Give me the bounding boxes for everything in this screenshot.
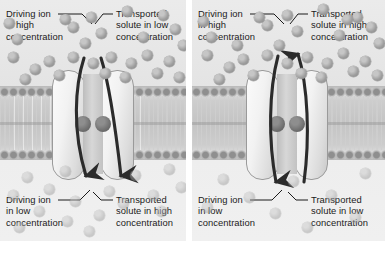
solute-particle-top bbox=[352, 12, 363, 23]
solute-particle-bottom bbox=[350, 212, 361, 223]
solute-particle-bottom bbox=[148, 190, 159, 201]
solute-particle-top bbox=[262, 20, 273, 31]
solute-particle-top bbox=[262, 50, 273, 61]
solute-particle-bottom bbox=[288, 176, 299, 187]
solute-particle-bottom bbox=[60, 166, 71, 177]
solute-particle-top bbox=[170, 24, 181, 35]
solute-particle-top bbox=[152, 68, 163, 79]
solute-particle-bottom bbox=[156, 206, 167, 217]
solute-particle-top bbox=[138, 32, 149, 43]
solute-particle-top bbox=[106, 52, 117, 63]
solute-particle-top bbox=[4, 18, 15, 29]
solute-particle-top bbox=[374, 38, 385, 49]
solute-particle-top bbox=[122, 6, 133, 17]
solute-particle-bottom bbox=[22, 172, 33, 183]
solute-particle-bottom bbox=[14, 222, 25, 233]
solute-particle-top bbox=[198, 16, 209, 27]
solute-particle-top bbox=[366, 22, 377, 33]
solute-particle-bottom bbox=[94, 210, 105, 221]
solute-particle-top bbox=[316, 72, 327, 83]
solute-particle-top bbox=[20, 74, 31, 85]
solute-particle-top bbox=[178, 40, 186, 51]
solute-particle-top bbox=[274, 40, 285, 51]
solute-particle-top bbox=[248, 70, 259, 81]
solute-particle-top bbox=[214, 74, 225, 85]
solute-particle-top bbox=[360, 56, 371, 67]
solute-particle-bottom bbox=[176, 182, 186, 193]
solute-particle-bottom bbox=[118, 198, 129, 209]
solute-particle-top bbox=[30, 64, 41, 75]
symport-panel: Driving ion in high concentration Transp… bbox=[0, 0, 186, 241]
solute-particle-top bbox=[322, 58, 333, 69]
solute-particle-top bbox=[292, 26, 303, 37]
solute-particle-top bbox=[202, 50, 213, 61]
solute-particle-top bbox=[164, 56, 175, 67]
solute-particle-bottom bbox=[44, 184, 55, 195]
solute-particle-top bbox=[68, 52, 79, 63]
solute-particle-top bbox=[372, 70, 383, 81]
solute-particle-top bbox=[238, 54, 249, 65]
solute-particle-bottom bbox=[164, 164, 175, 175]
solute-particle-bottom bbox=[62, 216, 73, 227]
solute-particle-top bbox=[302, 52, 313, 63]
solute-particle-top bbox=[282, 10, 293, 21]
solute-particle-top bbox=[282, 58, 293, 69]
solute-particle-top bbox=[342, 14, 353, 25]
solute-particle-top bbox=[232, 40, 243, 51]
solute-particle-bottom bbox=[70, 196, 81, 207]
solute-particle-bottom bbox=[360, 168, 371, 179]
solute-particle-bottom bbox=[326, 190, 337, 201]
solute-particle-top bbox=[54, 70, 65, 81]
solute-particle-bottom bbox=[218, 174, 229, 185]
solute-particle-bottom bbox=[302, 222, 313, 233]
solute-particle-top bbox=[334, 30, 345, 41]
solute-particle-bottom bbox=[244, 192, 255, 203]
solute-particle-top bbox=[80, 38, 91, 49]
solute-particle-bottom bbox=[270, 208, 281, 219]
solute-particle-top bbox=[206, 32, 217, 43]
solute-particle-top bbox=[120, 72, 131, 83]
solute-particle-top bbox=[158, 10, 169, 21]
solute-particle-bottom bbox=[34, 206, 45, 217]
solute-particle-top bbox=[174, 72, 185, 83]
solute-particle-top bbox=[338, 48, 349, 59]
transport-diagram: Driving ion in high concentration Transp… bbox=[0, 0, 385, 255]
solute-particle-top bbox=[126, 58, 137, 69]
solute-particle-top bbox=[44, 56, 55, 67]
solute-particle-top bbox=[96, 28, 107, 39]
solute-particle-top bbox=[224, 62, 235, 73]
solute-particle-top bbox=[88, 58, 99, 69]
solute-particle-top bbox=[254, 12, 265, 23]
solute-particle-top bbox=[296, 68, 307, 79]
solute-particle-bottom bbox=[130, 170, 141, 181]
solute-particle-top bbox=[86, 12, 97, 23]
solute-particle-bottom bbox=[8, 190, 19, 201]
antiport-panel: Driving ion in high concentration Transp… bbox=[192, 0, 385, 241]
solute-particle-top bbox=[318, 4, 329, 15]
solute-particle-top bbox=[60, 14, 71, 25]
solute-particle-bottom bbox=[84, 226, 95, 237]
solute-particle-top bbox=[142, 50, 153, 61]
label-bottom-right-antiport: Transported solute in low concentration bbox=[311, 194, 368, 228]
solute-particle-top bbox=[348, 66, 359, 77]
solute-particle-bottom bbox=[104, 186, 115, 197]
solute-particle-top bbox=[8, 52, 19, 63]
solute-particle-top bbox=[12, 34, 23, 45]
solute-particle-top bbox=[100, 68, 111, 79]
solute-particle-top bbox=[68, 22, 79, 33]
solute-particle-bottom bbox=[202, 202, 213, 213]
